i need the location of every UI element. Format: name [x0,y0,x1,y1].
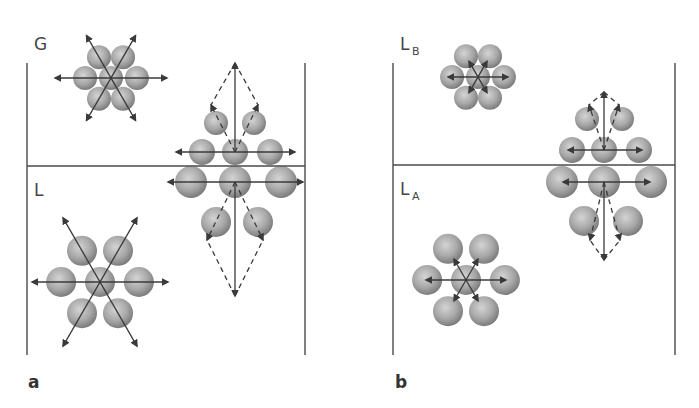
diagram-canvas: GLaLBLAb [0,0,699,408]
molecular-forces-figure: GLaLBLAb [0,0,699,408]
phase-label: G [34,34,47,54]
interface-molecule [575,107,599,131]
resultant-construction-line [211,63,235,105]
phase-label: L [400,34,410,54]
neighbor-molecule [478,44,502,68]
neighbor-molecule [454,86,478,110]
phase-label-subscript: A [412,190,420,203]
neighbor-molecule [454,44,478,68]
resultant-construction-line [604,92,619,105]
panel-label-a: a [28,372,39,392]
panel-label-b: b [395,372,407,392]
resultant-construction-line [589,92,604,105]
resultant-construction-line [235,63,258,105]
neighbor-molecule [433,234,463,264]
interface-molecule [201,207,231,237]
interface-molecule [204,111,228,135]
interface-molecule [242,111,266,135]
interface-molecule [243,207,273,237]
neighbor-molecule [433,296,463,326]
resultant-construction-line [590,240,604,260]
neighbor-molecule [478,86,502,110]
phase-label: L [400,179,410,199]
interface-molecule [610,107,634,131]
neighbor-molecule [469,234,499,264]
resultant-construction-line [207,240,235,296]
neighbor-molecule [469,296,499,326]
resultant-construction-line [235,240,263,296]
interface-molecule [613,206,643,236]
resultant-construction-line [604,240,620,260]
phase-label: L [34,180,44,200]
molecule-spheres [46,44,667,328]
phase-label-subscript: B [412,45,420,58]
